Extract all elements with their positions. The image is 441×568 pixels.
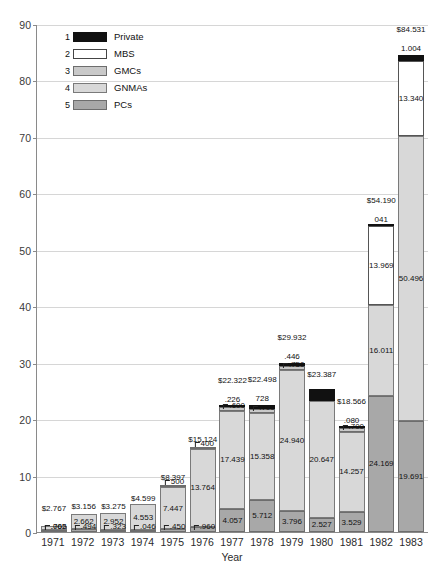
segment-value-label: 17.439 (220, 455, 244, 464)
segment-value-label: 7.447 (163, 504, 183, 513)
legend-item-pc[interactable]: 5PCs (60, 96, 147, 113)
bar-segment-mbs[interactable]: 13.969 (368, 226, 394, 305)
legend-label: MBS (114, 48, 135, 59)
bar-stack: 2.952 (100, 513, 126, 532)
segment-value-label: 15.358 (250, 452, 274, 461)
bar-segment-gnma[interactable]: 20.647 (309, 401, 335, 518)
segment-value-label: 2.952 (103, 517, 123, 526)
bar-column-1980[interactable]: 2.1320.6472.527$23.387 (307, 25, 337, 532)
bar-stack: 2.1320.6472.527 (309, 389, 335, 532)
x-tick-label-1974: 1974 (128, 536, 158, 548)
bar-total-label: $84.531 (397, 25, 426, 34)
x-tick-label-1983: 1983 (396, 536, 426, 548)
segment-value-label: 3.796 (282, 517, 302, 526)
bar-segment-gnma[interactable]: 4.553 (130, 504, 156, 530)
bar-column-1983[interactable]: 13.34050.49619.691$84.5311.004 (396, 25, 426, 532)
y-tick-label: 70 (19, 132, 31, 144)
legend-number: 3 (60, 66, 70, 76)
y-tick-label: 60 (19, 188, 31, 200)
bar-stack: 14.2573.529 (339, 426, 365, 532)
y-axis: Billions of dollars 0102030405060708090 (0, 0, 36, 533)
bar-stack: 13.96916.01124.169 (368, 224, 394, 532)
segment-value-label: 2.527 (312, 520, 332, 529)
bar-segment-pc[interactable]: 3.796 (279, 511, 305, 532)
bar-column-1978[interactable]: 15.3585.712$22.498.700728 (247, 25, 277, 532)
legend-item-mbs[interactable]: 2MBS (60, 45, 147, 62)
bar-total-label: $2.767 (42, 504, 66, 513)
x-tick-label-1981: 1981 (336, 536, 366, 548)
bar-segment-gnma[interactable]: 24.940 (279, 370, 305, 511)
segment-callout-private: 728 (256, 394, 269, 403)
legend-swatch-gmc (73, 66, 107, 76)
bar-segment-gnma[interactable]: 7.447 (160, 487, 186, 529)
bar-segment-pc[interactable]: 24.169 (368, 396, 394, 532)
segment-callout-private: .446 (284, 352, 300, 361)
bar-segment-pc[interactable] (71, 529, 97, 532)
x-tick-label-1973: 1973 (98, 536, 128, 548)
bar-segment-pc[interactable] (190, 527, 216, 532)
segment-value-label: 2.662 (74, 517, 94, 526)
bar-segment-pc[interactable]: 19.691 (398, 421, 424, 532)
bar-stack (41, 526, 67, 532)
segment-value-label: 16.011 (369, 346, 393, 355)
callout-text: .080 (344, 416, 360, 425)
bar-segment-gnma[interactable]: 2.952 (100, 513, 126, 530)
bar-segment-gnma[interactable]: 2.662 (71, 514, 97, 529)
x-tick-label-1978: 1978 (247, 536, 277, 548)
bar-segment-pc[interactable] (160, 529, 186, 532)
callout-text: 1.004 (401, 44, 421, 53)
y-tick-label: 30 (19, 358, 31, 370)
bar-column-1975[interactable]: 7.447$8.397.450500 (158, 25, 188, 532)
bar-segment-gnma[interactable]: 50.496 (398, 136, 424, 421)
legend-swatch-mbs (73, 49, 107, 59)
bar-segment-pc[interactable] (130, 530, 156, 532)
y-tick-label: 80 (19, 75, 31, 87)
x-tick-label-1975: 1975 (157, 536, 187, 548)
bar-column-1979[interactable]: 24.9403.796$29.932.750.446 (277, 25, 307, 532)
bar-segment-gnma[interactable]: 13.764 (190, 449, 216, 527)
bar-total-label: $22.322 (218, 376, 247, 385)
segment-value-label: 20.647 (310, 455, 334, 464)
bar-segment-gnma[interactable]: 17.439 (219, 411, 245, 509)
bar-total-label: $3.275 (101, 502, 125, 511)
x-tick-label-1982: 1982 (366, 536, 396, 548)
bar-column-1977[interactable]: 17.4394.057$22.322.600.226 (218, 25, 248, 532)
bar-segment-mbs[interactable]: 13.340 (398, 61, 424, 136)
bar-stack: 13.764 (190, 447, 216, 532)
bar-segment-pc[interactable]: 4.057 (219, 509, 245, 532)
bar-column-1976[interactable]: 13.764$15.124.960400 (188, 25, 218, 532)
x-tick-label-1979: 1979 (277, 536, 307, 548)
bar-segment-pc[interactable]: 2.527 (309, 518, 335, 532)
bar-stack: 13.34050.49619.691 (398, 55, 424, 532)
segment-callout-private: .226 (225, 395, 241, 404)
x-tick-label-1972: 1972 (68, 536, 98, 548)
bar-segment-pc[interactable] (41, 530, 67, 532)
bar-column-1981[interactable]: 14.2573.529$18.566.700.080 (337, 25, 367, 532)
segment-value-label: 3.529 (342, 518, 362, 527)
legend-item-gnma[interactable]: 4GNMAs (60, 79, 147, 96)
legend-label: GNMAs (114, 82, 147, 93)
bar-segment-private[interactable]: 2.13 (309, 389, 335, 401)
bar-segment-pc[interactable]: 3.529 (339, 512, 365, 532)
bar-segment-pc[interactable]: 5.712 (249, 500, 275, 532)
bar-segment-gnma[interactable]: 14.257 (339, 432, 365, 512)
bar-total-label: $3.156 (71, 502, 95, 511)
callout-text: 041 (375, 215, 388, 224)
legend-swatch-pc (73, 100, 107, 110)
legend-swatch-private (73, 32, 107, 42)
bar-total-label: $29.932 (278, 333, 307, 342)
legend-item-private[interactable]: 1Private (60, 28, 147, 45)
bar-total-label: $8.397 (161, 473, 185, 482)
bar-stack: 2.662 (71, 514, 97, 532)
bar-stack: 24.9403.796 (279, 363, 305, 532)
bar-segment-gnma[interactable]: 16.011 (368, 305, 394, 395)
segment-value-label: 5.712 (252, 511, 272, 520)
bar-total-label: $18.566 (337, 397, 366, 406)
legend-item-gmc[interactable]: 3GMCs (60, 62, 147, 79)
y-tick-label: 10 (19, 471, 31, 483)
x-tick-labels: 1971197219731974197519761977197819791980… (36, 536, 428, 548)
bar-segment-pc[interactable] (100, 530, 126, 532)
bar-segment-gnma[interactable]: 15.358 (249, 413, 275, 500)
segment-value-label: 24.169 (369, 459, 393, 468)
bar-column-1982[interactable]: 13.96916.01124.169$54.190041 (366, 25, 396, 532)
